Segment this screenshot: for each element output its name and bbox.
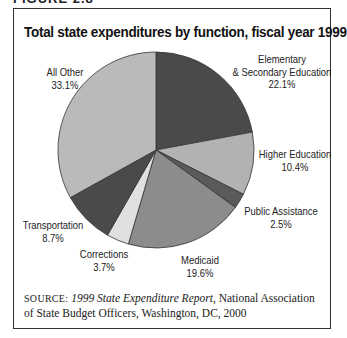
label-medicaid: Medicaid 19.6%	[169, 254, 232, 279]
source-title: 1999 State Expenditure Report	[71, 292, 213, 304]
label-all-other: All Other 33.1%	[43, 66, 88, 91]
label-higher-education: Higher Education 10.4%	[255, 148, 336, 173]
source-prefix: SOURCE:	[24, 293, 68, 304]
label-transportation: Transportation 8.7%	[22, 219, 85, 244]
source-note: SOURCE: 1999 State Expenditure Report, N…	[24, 291, 324, 321]
label-corrections: Corrections 3.7%	[73, 248, 136, 273]
label-elementary-secondary: Elementary & Secondary Education 22.1%	[228, 53, 336, 91]
label-public-assistance: Public Assistance 2.5%	[241, 205, 322, 230]
